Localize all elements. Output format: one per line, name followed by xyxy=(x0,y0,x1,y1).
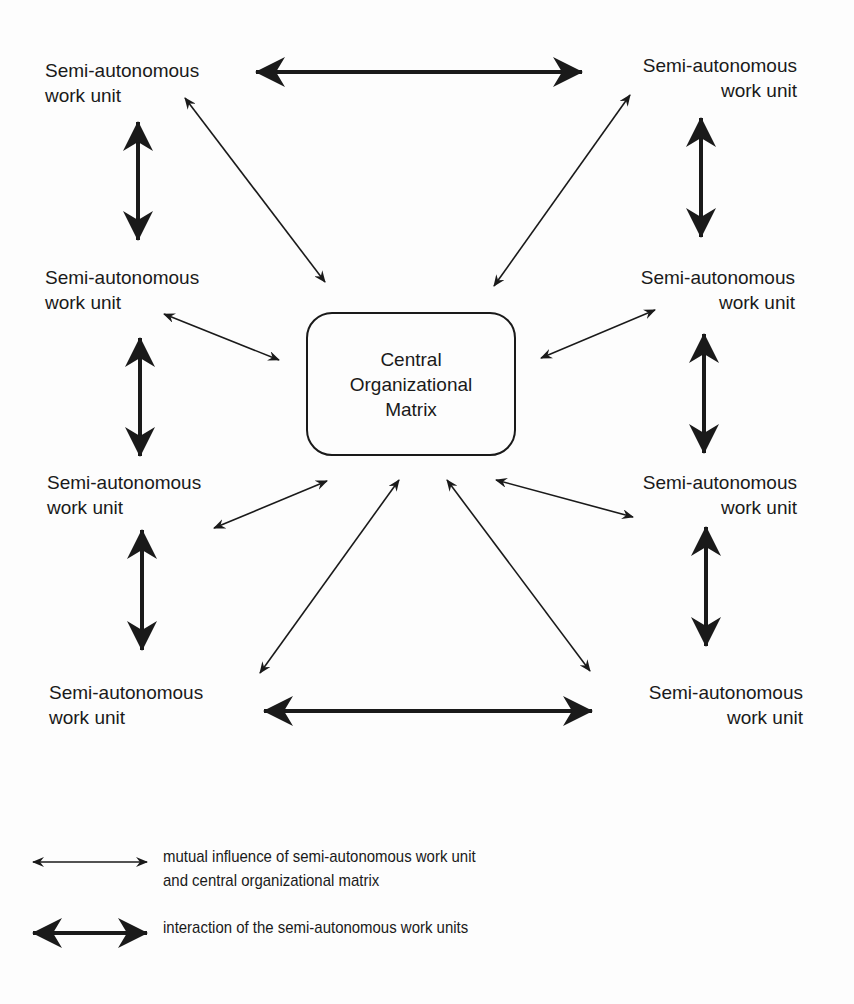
diagram-canvas: Semi-autonomous work unit Semi-autonomou… xyxy=(0,0,854,1004)
thin-arrow-mr1 xyxy=(541,310,655,358)
legend-thick-line1: interaction of the semi-autonomous work … xyxy=(163,916,468,940)
thin-arrow-bl xyxy=(260,480,399,673)
thin-arrow-mr2 xyxy=(496,480,633,517)
unit-label-line1: Semi-autonomous xyxy=(643,53,797,78)
center-label-line2: Organizational xyxy=(350,372,473,397)
unit-label-line1: Semi-autonomous xyxy=(643,470,797,495)
unit-label-line1: Semi-autonomous xyxy=(649,680,803,705)
unit-label-line1: Semi-autonomous xyxy=(45,58,199,83)
unit-label-line2: work unit xyxy=(643,495,797,520)
unit-label-line2: work unit xyxy=(45,83,199,108)
legend-thin-line1: mutual influence of semi-autonomous work… xyxy=(163,845,476,869)
unit-label-line2: work unit xyxy=(641,290,795,315)
unit-label-line1: Semi-autonomous xyxy=(45,265,199,290)
legend-thin-label: mutual influence of semi-autonomous work… xyxy=(163,845,476,893)
work-unit-mid-left-1: Semi-autonomous work unit xyxy=(45,265,199,315)
work-unit-mid-right-1: Semi-autonomous work unit xyxy=(641,265,795,315)
work-unit-bottom-left: Semi-autonomous work unit xyxy=(49,680,203,730)
work-unit-top-left: Semi-autonomous work unit xyxy=(45,58,199,108)
unit-label-line2: work unit xyxy=(47,495,201,520)
unit-label-line1: Semi-autonomous xyxy=(49,680,203,705)
unit-label-line2: work unit xyxy=(643,78,797,103)
thin-arrow-ml1 xyxy=(164,314,279,360)
center-label-line1: Central xyxy=(380,347,441,372)
unit-label-line2: work unit xyxy=(45,290,199,315)
work-unit-top-right: Semi-autonomous work unit xyxy=(643,53,797,103)
unit-label-line2: work unit xyxy=(49,705,203,730)
thin-arrow-tr xyxy=(494,95,630,286)
legend-thin-line2: and central organizational matrix xyxy=(163,869,476,893)
work-unit-bottom-right: Semi-autonomous work unit xyxy=(649,680,803,730)
unit-label-line1: Semi-autonomous xyxy=(47,470,201,495)
work-unit-mid-left-2: Semi-autonomous work unit xyxy=(47,470,201,520)
thin-arrow-tl xyxy=(185,98,325,282)
work-unit-mid-right-2: Semi-autonomous work unit xyxy=(643,470,797,520)
legend-thick-label: interaction of the semi-autonomous work … xyxy=(163,916,468,940)
unit-label-line2: work unit xyxy=(649,705,803,730)
unit-label-line1: Semi-autonomous xyxy=(641,265,795,290)
central-organizational-matrix: Central Organizational Matrix xyxy=(306,312,516,456)
thin-arrow-br xyxy=(447,480,590,671)
thin-arrow-ml2 xyxy=(214,481,327,528)
center-label-line3: Matrix xyxy=(385,397,437,422)
